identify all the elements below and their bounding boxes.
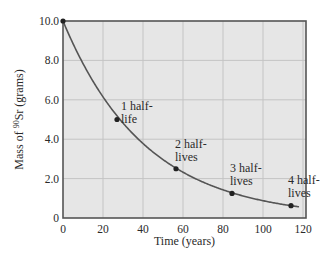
x-tick-label: 100	[254, 223, 272, 235]
x-axis-label: Time (years)	[154, 234, 215, 248]
y-axis-label-suffix: (grams)	[12, 69, 26, 109]
x-tick-label: 20	[97, 223, 109, 235]
x-tick-label: 0	[60, 223, 66, 235]
y-tick-label: 2.0	[45, 173, 60, 185]
y-tick-label: 4.0	[45, 133, 60, 145]
x-tick-label: 120	[294, 223, 312, 235]
y-axis-ticks: 02.04.06.08.010.0	[39, 15, 59, 224]
y-tick-label: 0	[53, 212, 59, 224]
x-tick-label: 80	[217, 223, 229, 235]
x-tick-label: 40	[137, 223, 149, 235]
y-axis-label-element: Sr	[12, 110, 26, 121]
data-point	[229, 191, 234, 196]
annotation-half-life-4: 4 half-lives	[288, 173, 320, 200]
data-point	[288, 203, 293, 208]
decay-chart: 020406080100120 02.04.06.08.010.0 1 half…	[0, 0, 328, 261]
data-point	[60, 18, 65, 23]
y-axis-label: Mass of 90Sr (grams)	[12, 69, 26, 169]
y-tick-label: 10.0	[39, 15, 59, 27]
data-point	[173, 166, 178, 171]
y-axis-label-superscript: 90	[12, 120, 21, 128]
y-tick-label: 6.0	[45, 94, 60, 106]
plot-area	[63, 21, 306, 218]
data-point	[114, 117, 119, 122]
y-tick-label: 8.0	[45, 54, 60, 66]
y-axis-label-prefix: Mass of	[12, 128, 26, 169]
